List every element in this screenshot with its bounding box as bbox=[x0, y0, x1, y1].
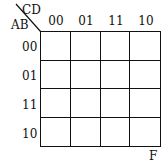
row-variable-label: AB bbox=[11, 19, 28, 31]
column-label: 00 bbox=[41, 14, 71, 28]
column-label: 01 bbox=[71, 14, 101, 28]
kmap-cell bbox=[130, 61, 160, 90]
kmap-cell bbox=[130, 118, 160, 147]
row-label: 00 bbox=[22, 40, 37, 54]
function-label: F bbox=[149, 150, 157, 162]
kmap-cell bbox=[130, 89, 160, 118]
row-label: 10 bbox=[22, 127, 37, 141]
row-label: 01 bbox=[22, 69, 37, 83]
kmap-cell bbox=[71, 89, 101, 118]
kmap-cell bbox=[41, 61, 71, 90]
kmap-cell bbox=[41, 118, 71, 147]
kmap-cell bbox=[101, 89, 131, 118]
kmap-cell bbox=[101, 118, 131, 147]
column-label: 10 bbox=[131, 14, 161, 28]
karnaugh-map-grid bbox=[40, 31, 161, 147]
kmap-cell bbox=[71, 32, 101, 61]
kmap-cell bbox=[71, 61, 101, 90]
column-label: 11 bbox=[101, 14, 131, 28]
kmap-cell bbox=[41, 89, 71, 118]
kmap-cell bbox=[130, 32, 160, 61]
row-label: 11 bbox=[22, 98, 37, 112]
kmap-cell bbox=[101, 32, 131, 61]
column-variable-label: CD bbox=[22, 4, 41, 16]
kmap-cell bbox=[41, 32, 71, 61]
kmap-cell bbox=[71, 118, 101, 147]
kmap-cell bbox=[101, 61, 131, 90]
